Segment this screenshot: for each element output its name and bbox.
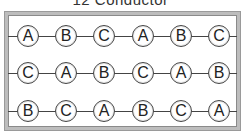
wire-line <box>8 36 237 37</box>
wire-line <box>8 73 237 74</box>
conductor-node: C <box>55 100 77 122</box>
conductor-node: A <box>17 25 39 47</box>
conductor-node: A <box>208 100 230 122</box>
conductor-node: C <box>170 100 192 122</box>
wire-line <box>8 111 237 112</box>
diagram-title: 12 Conductor <box>0 0 241 8</box>
conductor-node: C <box>93 25 115 47</box>
conductor-node: B <box>170 25 192 47</box>
conductor-frame: A B C A B C C A B C A B B C A B C A <box>4 11 241 131</box>
conductor-node: C <box>208 25 230 47</box>
conductor-node: A <box>55 62 77 84</box>
conductor-node: C <box>132 62 154 84</box>
conductor-node: B <box>17 100 39 122</box>
conductor-row-3: B C A B C A <box>8 100 237 124</box>
conductor-node: C <box>17 62 39 84</box>
conductor-node: A <box>93 100 115 122</box>
conductor-node: B <box>132 100 154 122</box>
conductor-node: B <box>208 62 230 84</box>
conductor-node: A <box>170 62 192 84</box>
conductor-node: A <box>132 25 154 47</box>
conductor-node: B <box>55 25 77 47</box>
conductor-node: B <box>93 62 115 84</box>
conductor-row-2: C A B C A B <box>8 62 237 86</box>
conductor-row-1: A B C A B C <box>8 25 237 49</box>
